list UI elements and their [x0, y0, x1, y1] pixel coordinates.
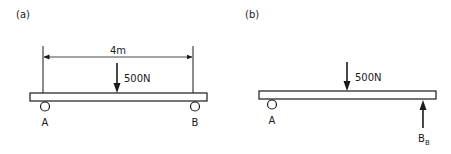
panel-b-label: (b) [245, 9, 259, 20]
load-arrow-head-icon [344, 81, 351, 91]
roller-support-icon [268, 100, 277, 109]
support-label-b: B [192, 117, 199, 128]
panel-b: (b) 500N A BB [245, 9, 436, 147]
beam [259, 91, 436, 99]
beam [30, 93, 207, 101]
support-label-a: A [269, 115, 276, 126]
roller-support-icon [41, 102, 50, 111]
roller-support-icon [191, 102, 200, 111]
beam-diagrams: (a) 4m 500N A B (b) 500N A BB [0, 0, 451, 154]
dimension-label: 4m [110, 45, 126, 56]
support-label-a: A [42, 117, 49, 128]
panel-a-label: (a) [16, 9, 30, 20]
reaction-label: BB [418, 133, 430, 147]
reaction-arrow-head-icon [420, 100, 427, 110]
panel-a: (a) 4m 500N A B [16, 9, 207, 128]
load-label: 500N [355, 72, 382, 83]
load-arrow-head-icon [114, 83, 121, 93]
load-label: 500N [124, 73, 151, 84]
